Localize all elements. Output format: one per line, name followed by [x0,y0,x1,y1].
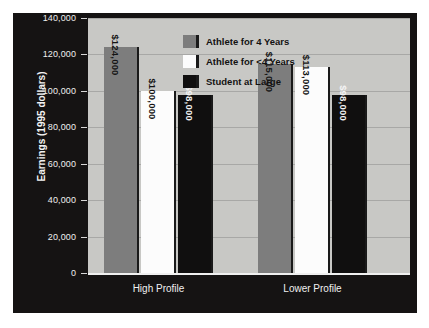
y-axis-tick-label: 100,000 [43,86,76,96]
y-axis-tick [81,200,87,201]
x-axis-category-labels: High ProfileLower Profile [88,277,410,309]
y-axis-tick-label: 120,000 [43,49,76,59]
bar: $115,000 [258,64,293,273]
bar: $98,000 [332,95,367,274]
y-axis-tick-label: 40,000 [48,195,76,205]
gridline [88,18,410,19]
legend-item-label: Athlete for 4 Years [206,36,289,47]
chart-panel: Earnings (1995 dollars) 020,00040,00060,… [13,13,417,313]
bar-value-label: $98,000 [338,85,349,121]
legend-item: Student at Large [183,73,295,90]
x-axis-baseline [88,273,410,275]
y-axis-tick [81,91,87,92]
y-axis-tick [81,127,87,128]
bar: $113,000 [295,67,330,273]
legend-swatch-icon [183,75,199,88]
legend-swatch-icon [183,55,199,68]
y-axis-ticks [81,18,88,273]
y-axis-tick [81,273,87,274]
legend-item-label: Student at Large [206,76,281,87]
y-axis-tick-label: 60,000 [48,159,76,169]
x-axis-category-label: Lower Profile [283,283,341,294]
bar: $124,000 [104,47,139,273]
plot-area: $124,000$100,000$98,000$115,000$113,000$… [88,18,410,273]
legend-swatch-icon [183,35,199,48]
bar: $100,000 [141,91,176,273]
legend-item: Athlete for 4 Years [183,33,295,50]
y-axis-tick-label: 80,000 [48,122,76,132]
y-axis-labels: 020,00040,00060,00080,000100,000120,0001… [13,18,76,273]
y-axis-tick [81,164,87,165]
y-axis-tick-label: 140,000 [43,13,76,23]
y-axis-tick-label: 20,000 [48,232,76,242]
y-axis-tick [81,237,87,238]
x-axis-category-label: High Profile [133,283,185,294]
y-axis-tick-label: 0 [71,268,76,278]
bar: $98,000 [178,95,213,274]
bar-value-label: $124,000 [110,35,121,76]
bar-value-label: $100,000 [147,78,158,119]
y-axis-tick [81,54,87,55]
bar-value-label: $113,000 [301,55,312,96]
chart-legend: Athlete for 4 YearsAthlete for <4 YearsS… [183,33,295,93]
y-axis-tick [81,18,87,19]
legend-item-label: Athlete for <4 Years [206,56,295,67]
legend-item: Athlete for <4 Years [183,53,295,70]
bar-chart-figure: Earnings (1995 dollars) 020,00040,00060,… [0,0,429,328]
